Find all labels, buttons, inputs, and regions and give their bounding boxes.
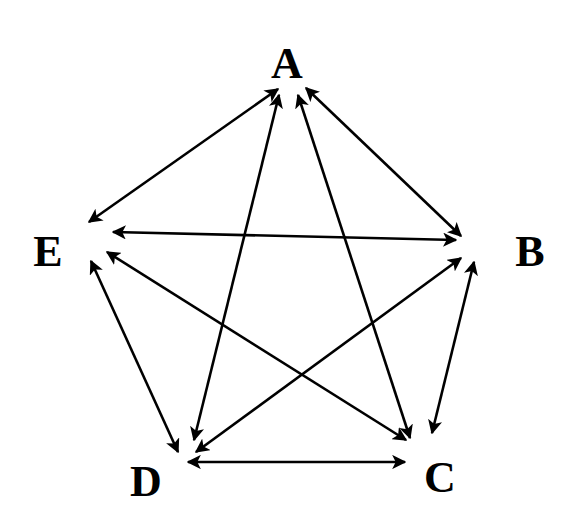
node-label-d: D (130, 460, 162, 504)
edge-e-c-double-arrow (107, 252, 406, 440)
edges-group (89, 88, 474, 462)
node-label-a: A (271, 42, 303, 86)
edge-b-d-double-arrow (196, 258, 461, 452)
edge-e-b-double-arrow (113, 232, 456, 240)
node-label-c: C (424, 456, 456, 500)
edge-a-c-double-arrow (298, 95, 410, 438)
edge-b-c-double-arrow (432, 262, 474, 433)
edge-a-b-double-arrow (306, 88, 461, 236)
node-label-b: B (515, 230, 544, 274)
edge-a-e-double-arrow (89, 89, 278, 222)
node-label-e: E (33, 230, 62, 274)
edge-a-d-double-arrow (194, 95, 279, 440)
